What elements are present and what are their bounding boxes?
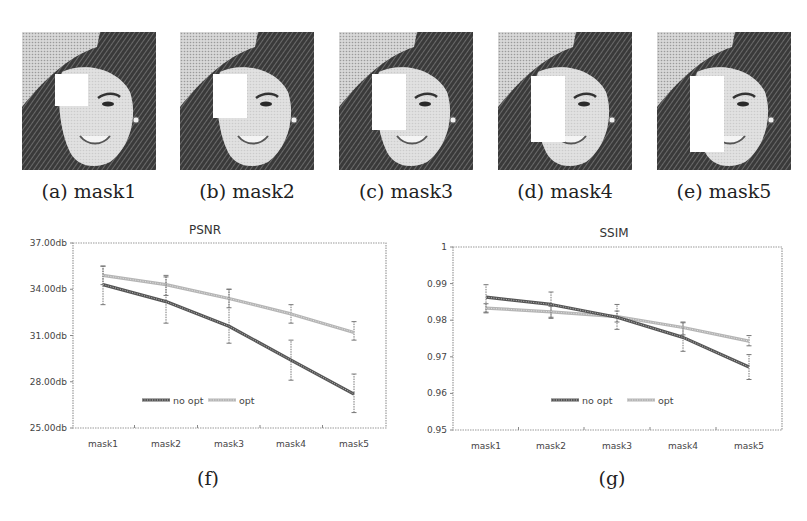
- legend-label: no opt: [582, 395, 613, 406]
- x-tick-label: mask1: [88, 439, 118, 449]
- masked-face-image-a: [22, 32, 156, 170]
- x-tick-label: mask2: [151, 439, 181, 449]
- image-caption-a: (a) mask1: [14, 180, 164, 202]
- masked-face-image-c: [339, 32, 473, 170]
- y-tick-label: 34.00db: [30, 284, 67, 294]
- masked-face-image-d: [498, 32, 632, 170]
- x-tick-label: mask4: [668, 441, 698, 450]
- chart-legend: no optopt: [551, 395, 674, 406]
- x-tick-label: mask5: [734, 441, 764, 450]
- image-caption-e: (e) mask5: [649, 180, 799, 202]
- masked-face-image-e: [657, 32, 791, 170]
- y-tick-label: 28.00db: [30, 377, 67, 387]
- legend-label: no opt: [173, 395, 204, 406]
- series-no-opt: [101, 266, 357, 412]
- y-tick-label: 0.96: [427, 388, 447, 398]
- image-caption-b: (b) mask2: [172, 180, 322, 202]
- y-tick-label: 25.00db: [30, 423, 67, 433]
- psnr-chart-caption: (f): [188, 467, 228, 489]
- y-tick-label: 0.98: [427, 315, 447, 325]
- y-tick-label: 31.00db: [30, 331, 67, 341]
- y-tick-label: 0.99: [427, 279, 447, 289]
- chart-legend: no optopt: [142, 395, 255, 406]
- x-tick-label: mask2: [536, 441, 566, 450]
- ssim-chart: 10.990.980.970.960.95mask1mask2mask3mask…: [400, 230, 807, 450]
- x-tick-label: mask1: [471, 441, 501, 450]
- y-tick-label: 1: [441, 242, 447, 252]
- series-opt: [484, 304, 752, 346]
- y-tick-label: 0.95: [427, 425, 447, 435]
- x-tick-label: mask5: [339, 439, 369, 449]
- image-caption-c: (c) mask3: [331, 180, 481, 202]
- x-tick-label: mask3: [602, 441, 632, 450]
- legend-label: opt: [239, 395, 255, 406]
- masked-face-image-b: [180, 32, 314, 170]
- ssim-chart-caption: (g): [592, 467, 632, 489]
- image-caption-d: (d) mask4: [490, 180, 640, 202]
- y-tick-label: 37.00db: [30, 238, 67, 248]
- psnr-chart: 37.00db34.00db31.00db28.00db25.00dbmask1…: [0, 230, 400, 450]
- legend-label: opt: [658, 395, 674, 406]
- x-tick-label: mask4: [276, 439, 306, 449]
- y-tick-label: 0.97: [427, 352, 447, 362]
- x-tick-label: mask3: [214, 439, 244, 449]
